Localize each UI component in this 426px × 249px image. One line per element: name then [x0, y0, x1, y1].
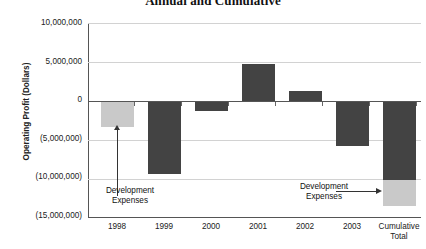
annotation-cumulative-line1: Development	[288, 182, 360, 192]
gridline-10m	[88, 23, 421, 24]
zero-line	[88, 101, 421, 102]
bar-2003	[336, 101, 369, 146]
annotation-cumulative-line2: Expenses	[288, 192, 360, 202]
annotation-1998-label: Development Expenses	[90, 186, 170, 206]
annotation-cumulative-label: Development Expenses	[288, 182, 360, 202]
annotation-1998-arrowhead-icon	[114, 125, 120, 130]
x-tick-mark	[369, 102, 370, 106]
y-tick-label: (5,000,000)	[0, 134, 82, 143]
x-axis-tick-labels: 1998 1999 2000 2001 2002 2003 Cumulative…	[88, 222, 426, 247]
annotation-cumulative-arrowhead-icon	[376, 188, 382, 194]
x-label-cumulative-total: Cumulative Total	[366, 222, 426, 242]
y-tick-label: 0	[0, 95, 82, 104]
x-label-text: Cumulative	[366, 222, 426, 232]
x-tick-mark	[322, 102, 323, 106]
bar-cumulative-total-light-segment	[383, 180, 416, 206]
x-label-text: Total	[366, 232, 426, 242]
bar-cumulative-total-dark-segment	[383, 101, 416, 180]
y-tick-label: (10,000,000)	[0, 172, 82, 181]
y-axis-line	[88, 23, 89, 218]
x-axis-line	[88, 217, 421, 218]
bar-1998	[101, 101, 134, 127]
y-tick-label: (15,000,000)	[0, 211, 82, 220]
bar-1999	[148, 101, 181, 174]
x-tick-mark	[416, 102, 417, 106]
annotation-1998-line1: Development	[90, 186, 170, 196]
bar-2001	[242, 64, 275, 101]
bar-2000	[195, 101, 228, 111]
x-tick-mark	[134, 102, 135, 106]
y-tick-label: 10,000,000	[0, 18, 82, 27]
x-tick-mark	[228, 102, 229, 106]
gridline-neg10m	[88, 179, 421, 180]
gridline-5m	[88, 62, 421, 63]
y-axis-tick-labels: 10,000,000 5,000,000 0 (5,000,000) (10,0…	[0, 0, 88, 249]
x-tick-mark	[181, 102, 182, 106]
gridline-neg5m	[88, 140, 421, 141]
bar-2002	[289, 91, 322, 101]
y-tick-label: 5,000,000	[0, 57, 82, 66]
annotation-1998-line2: Expenses	[90, 196, 170, 206]
x-tick-mark	[275, 102, 276, 106]
chart-container: Annual and Cumulative Operating Profit (…	[0, 0, 426, 249]
